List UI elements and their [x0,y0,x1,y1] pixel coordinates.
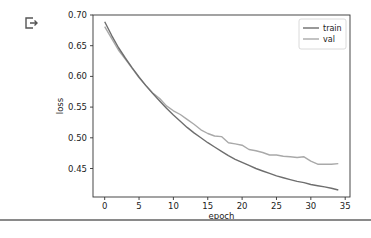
output-divider [0,219,371,221]
legend-val-label: val [323,35,335,44]
y-tick-label: 0.55 [68,102,87,112]
y-tick-label: 0.70 [68,10,87,20]
x-tick-label: 20 [237,201,248,211]
y-tick-label: 0.45 [68,164,87,174]
y-axis-label: loss [55,97,65,114]
x-tick-label: 10 [168,201,179,211]
loss-chart: 0.450.500.550.600.650.7005101520253035ep… [0,0,371,238]
y-tick-label: 0.60 [68,71,87,81]
legend-train-label: train [323,24,342,33]
y-tick-label: 0.50 [68,133,87,143]
x-tick-label: 30 [305,201,316,211]
x-tick-label: 5 [136,201,141,211]
x-tick-label: 15 [202,201,213,211]
x-tick-label: 25 [271,201,282,211]
x-tick-label: 0 [102,201,107,211]
x-tick-label: 35 [340,201,351,211]
y-tick-label: 0.65 [68,41,87,51]
